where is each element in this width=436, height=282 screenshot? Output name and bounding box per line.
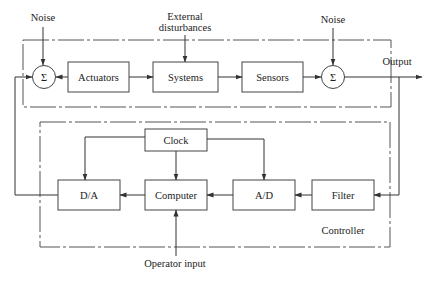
- clock-to-ad-arrow: [207, 139, 264, 180]
- da-block: D/A: [58, 180, 120, 210]
- ad-label: A/D: [255, 190, 274, 201]
- controller-label: Controller: [321, 225, 365, 236]
- filter-block: Filter: [312, 180, 374, 210]
- systems-label: Systems: [168, 72, 203, 83]
- clock-to-da-arrow: [85, 137, 145, 180]
- clock-label: Clock: [163, 135, 189, 146]
- external-disturbances-label-line2: disturbances: [159, 22, 212, 33]
- ad-block: A/D: [233, 180, 295, 210]
- operator-input-label: Operator input: [144, 258, 206, 269]
- actuators-label: Actuators: [78, 72, 119, 83]
- sigma-symbol-right: Σ: [330, 72, 336, 83]
- control-system-diagram: Noise External disturbances Noise Output…: [0, 0, 436, 282]
- da-to-sum-line: [15, 77, 58, 195]
- sensors-label: Sensors: [256, 72, 289, 83]
- computer-label: Computer: [155, 190, 197, 201]
- filter-label: Filter: [332, 190, 355, 201]
- da-label: D/A: [80, 190, 99, 201]
- output-to-filter-line: [374, 77, 399, 195]
- output-label: Output: [382, 56, 411, 67]
- computer-block: Computer: [145, 180, 207, 210]
- sigma-symbol-left: Σ: [41, 72, 47, 83]
- clock-block: Clock: [145, 129, 207, 151]
- systems-block: Systems: [153, 62, 218, 92]
- noise-left-label: Noise: [31, 12, 56, 23]
- actuators-block: Actuators: [68, 62, 129, 92]
- summing-junction-left: Σ: [33, 66, 56, 89]
- noise-right-label: Noise: [321, 14, 346, 25]
- summing-junction-right: Σ: [322, 66, 345, 89]
- external-disturbances-label-line1: External: [167, 11, 203, 22]
- sensors-block: Sensors: [242, 62, 303, 92]
